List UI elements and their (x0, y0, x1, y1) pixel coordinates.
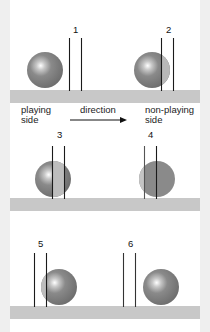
ground-bar (10, 306, 200, 319)
ball-step-2 (134, 52, 170, 88)
ball-step-1 (27, 52, 63, 88)
step-label-6: 6 (128, 238, 133, 249)
step-label-3: 3 (57, 129, 62, 140)
section-1: 1 2 playing side direction non-playing s… (10, 24, 200, 125)
ground-bar (10, 198, 200, 211)
non-playing-side-label-line2: side (145, 114, 162, 125)
playing-side-label-line2: side (21, 114, 38, 125)
step-label-4: 4 (148, 129, 153, 140)
direction-arrow-icon (70, 117, 127, 123)
ball-step-6 (143, 269, 179, 305)
step-label-1: 1 (73, 24, 78, 35)
wicket-step-6 (124, 253, 136, 307)
direction-label: direction (80, 104, 116, 115)
section-3: 5 6 (10, 238, 200, 319)
wicket-diagram: 1 2 playing side direction non-playing s… (0, 0, 210, 332)
wicket-step-1 (70, 38, 82, 91)
step-label-5: 5 (38, 238, 43, 249)
section-2: 3 4 (10, 129, 200, 211)
step-label-2: 2 (166, 24, 171, 35)
ground-bar (10, 90, 200, 103)
